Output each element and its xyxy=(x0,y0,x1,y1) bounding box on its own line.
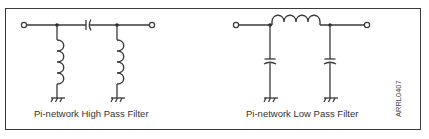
high-pass-filter-schematic xyxy=(21,20,154,103)
low-pass-caption: Pi-network Low Pass Filter xyxy=(246,108,358,119)
shunt-inductor-icon xyxy=(117,25,124,98)
high-pass-caption: Pi-network High Pass Filter xyxy=(34,108,149,119)
input-terminal-icon xyxy=(233,22,238,27)
shunt-capacitor-icon xyxy=(264,25,276,98)
ground-icon xyxy=(324,98,338,102)
low-pass-filter-schematic xyxy=(233,15,369,102)
input-terminal-icon xyxy=(21,22,26,27)
shunt-inductor-icon xyxy=(57,25,64,98)
figure-id-label: ARRL0407 xyxy=(394,80,403,117)
series-inductor-icon xyxy=(272,15,320,25)
ground-icon xyxy=(264,98,278,102)
output-terminal-icon xyxy=(364,22,369,27)
ground-icon xyxy=(51,98,65,102)
shunt-capacitor-icon xyxy=(324,25,336,98)
ground-icon xyxy=(111,98,125,102)
output-terminal-icon xyxy=(149,22,154,27)
